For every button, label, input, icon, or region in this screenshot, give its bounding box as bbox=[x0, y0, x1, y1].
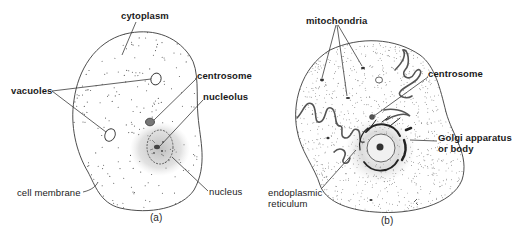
stipple-dot bbox=[103, 165, 104, 166]
stipple-dot bbox=[381, 60, 382, 61]
stipple-dot bbox=[436, 213, 437, 214]
stipple-dot bbox=[345, 173, 346, 174]
stipple-dot bbox=[363, 113, 364, 114]
stipple-dot bbox=[310, 36, 311, 37]
stipple-dot bbox=[323, 194, 324, 195]
stipple-dot bbox=[385, 46, 386, 47]
stipple-dot bbox=[421, 85, 422, 86]
stipple-dot bbox=[347, 110, 348, 111]
stipple-dot bbox=[296, 66, 297, 67]
stipple-dot bbox=[114, 58, 115, 59]
stipple-dot bbox=[409, 47, 410, 48]
stipple-dot bbox=[321, 164, 322, 165]
stipple-dot bbox=[174, 193, 175, 194]
stipple-dot bbox=[453, 160, 454, 161]
stipple-dot bbox=[334, 64, 335, 65]
stipple-dot bbox=[436, 106, 437, 107]
stipple-dot bbox=[467, 39, 468, 40]
stipple-dot bbox=[312, 74, 313, 75]
stipple-dot bbox=[439, 79, 440, 80]
stipple-dot bbox=[424, 213, 425, 214]
stipple-dot bbox=[312, 66, 313, 67]
stipple-dot bbox=[418, 109, 419, 110]
stipple-dot bbox=[353, 194, 354, 195]
stipple-dot bbox=[300, 58, 301, 59]
stipple-dot bbox=[429, 80, 430, 81]
stipple-dot bbox=[448, 168, 449, 169]
stipple-dot bbox=[134, 28, 135, 29]
stipple-dot bbox=[297, 166, 298, 167]
stipple-dot bbox=[114, 32, 115, 33]
stipple-dot bbox=[447, 57, 448, 58]
stipple-dot bbox=[378, 75, 379, 76]
stipple-dot bbox=[420, 53, 421, 54]
stipple-dot bbox=[168, 30, 169, 31]
stipple-dot bbox=[151, 111, 152, 112]
stipple-dot bbox=[81, 31, 82, 32]
stipple-dot bbox=[321, 67, 322, 68]
stipple-dot bbox=[356, 185, 357, 186]
stipple-dot bbox=[463, 66, 464, 67]
stipple-dot bbox=[314, 142, 315, 143]
stipple-dot bbox=[420, 189, 421, 190]
mitochondrion bbox=[361, 67, 365, 70]
stipple-dot bbox=[405, 73, 406, 74]
stipple-dot bbox=[454, 128, 455, 129]
stipple-dot bbox=[398, 42, 399, 43]
stipple-dot bbox=[361, 196, 362, 197]
stipple-dot bbox=[317, 72, 318, 73]
stipple-dot bbox=[326, 189, 327, 190]
stipple-dot bbox=[171, 88, 172, 89]
stipple-dot bbox=[341, 111, 342, 112]
stipple-dot bbox=[335, 191, 336, 192]
stipple-dot bbox=[308, 141, 309, 142]
stipple-dot bbox=[300, 213, 301, 214]
stipple-dot bbox=[424, 57, 425, 58]
nucleolus-b bbox=[377, 144, 384, 151]
stipple-dot bbox=[349, 119, 350, 120]
stipple-dot bbox=[433, 208, 434, 209]
stipple-dot bbox=[322, 164, 323, 165]
stipple-dot bbox=[427, 88, 428, 89]
stipple-dot bbox=[309, 96, 310, 97]
stipple-dot bbox=[379, 106, 380, 107]
stipple-dot bbox=[82, 54, 83, 55]
stipple-dot bbox=[433, 111, 434, 112]
stipple-dot bbox=[325, 152, 326, 153]
stipple-dot bbox=[340, 203, 341, 204]
stipple-dot bbox=[325, 84, 326, 85]
stipple-dot bbox=[356, 72, 357, 73]
stipple-dot bbox=[451, 115, 452, 116]
stipple-dot bbox=[387, 116, 388, 117]
stipple-dot bbox=[437, 213, 438, 214]
stipple-dot bbox=[348, 113, 349, 114]
stipple-dot bbox=[380, 45, 381, 46]
stipple-dot bbox=[295, 95, 296, 96]
label-cytoplasm: cytoplasm bbox=[121, 11, 169, 21]
stipple-dot bbox=[457, 85, 458, 86]
stipple-dot bbox=[430, 96, 431, 97]
stipple-dot bbox=[465, 94, 466, 95]
stipple-dot bbox=[402, 77, 403, 78]
stipple-dot bbox=[463, 49, 464, 50]
stipple-dot bbox=[295, 154, 296, 155]
stipple-dot bbox=[102, 61, 103, 62]
stipple-dot bbox=[466, 177, 467, 178]
stipple-dot bbox=[349, 93, 350, 94]
stipple-dot bbox=[430, 155, 431, 156]
stipple-dot bbox=[93, 215, 94, 216]
stipple-dot bbox=[331, 169, 332, 170]
stipple-dot bbox=[333, 197, 334, 198]
mitochondrion bbox=[320, 79, 324, 82]
stipple-dot bbox=[389, 81, 390, 82]
stipple-dot bbox=[433, 167, 434, 168]
stipple-dot bbox=[453, 208, 454, 209]
stipple-dot bbox=[370, 65, 371, 66]
stipple-dot bbox=[149, 68, 150, 69]
stipple-dot bbox=[427, 108, 428, 109]
stipple-dot bbox=[431, 38, 432, 39]
stipple-dot bbox=[354, 126, 355, 127]
stipple-dot bbox=[316, 148, 317, 149]
stipple-dot bbox=[107, 209, 108, 210]
stipple-dot bbox=[300, 34, 301, 35]
